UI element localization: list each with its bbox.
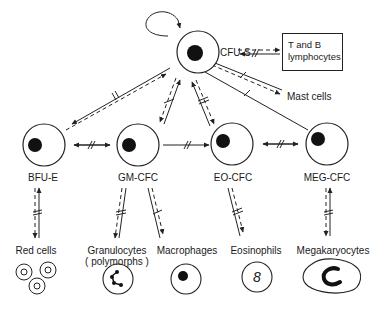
granulocytes-label: Granulocytes — [88, 245, 147, 256]
meg-cfc-cell — [306, 123, 348, 165]
granulocyte-icon — [103, 264, 133, 294]
mast-cells-label: Mast cells — [287, 91, 331, 102]
svg-text:8: 8 — [253, 269, 261, 285]
bfu-e-label: BFU-E — [28, 172, 58, 183]
macrophages-label: Macrophages — [157, 245, 218, 256]
megakaryocytes-label: Megakaryocytes — [297, 245, 370, 256]
red-cells-icon — [16, 262, 56, 294]
macrophage-icon — [171, 264, 201, 294]
megakaryocyte-icon — [303, 259, 361, 293]
eo-cfc-label: EO-CFC — [214, 172, 252, 183]
eosinophil-icon: 8 — [242, 262, 272, 292]
bfu-e-cell — [23, 124, 65, 166]
gm-cfc-cell — [117, 124, 159, 166]
red-cells-label: Red cells — [15, 245, 56, 256]
eosinophils-label: Eosinophils — [230, 245, 281, 256]
eo-cfc-cell — [211, 123, 253, 165]
gm-cfc-label: GM-CFC — [118, 172, 158, 183]
lymphocytes-box: T and B lymphocytes — [282, 33, 343, 71]
cfu-s-label: CFU-S — [220, 47, 251, 58]
meg-cfc-label: MEG-CFC — [304, 172, 351, 183]
polymorphs-label: ( polymorphs ) — [85, 256, 149, 267]
cfu-s-cell — [177, 31, 219, 73]
self-renewal-arrow — [146, 12, 180, 36]
